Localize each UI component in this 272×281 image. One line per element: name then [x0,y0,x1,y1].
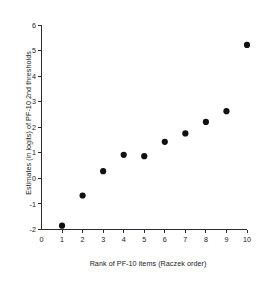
plot-svg: -2-10123456012345678910 [0,0,272,281]
y-tick-label: 3 [32,97,36,106]
y-tick-label: 1 [32,148,36,157]
data-point [59,223,65,229]
x-tick-label: 9 [224,235,228,244]
y-tick-label: 2 [32,123,36,132]
plot-area: -2-10123456012345678910 [0,0,272,281]
y-tick-label: 4 [32,72,36,81]
data-point [182,130,188,136]
scatter-chart-figure: Estimates (in logits) of PF-10 2nd thres… [0,0,272,281]
data-point [244,42,250,48]
x-tick-label: 4 [122,235,126,244]
ticks-layer: -2-10123456012345678910 [30,21,251,244]
x-tick-label: 8 [204,235,208,244]
y-tick-label: -2 [30,225,36,234]
x-tick-label: 0 [40,235,44,244]
data-points-layer [59,42,250,229]
data-point [121,152,127,158]
axes-layer [42,25,248,230]
data-point [80,192,86,198]
y-tick-label: -1 [30,200,36,209]
x-tick-label: 6 [163,235,167,244]
data-point [162,139,168,145]
x-tick-label: 1 [60,235,64,244]
x-tick-label: 5 [142,235,146,244]
data-point [141,153,147,159]
axis-spines [42,25,248,230]
x-tick-label: 2 [81,235,85,244]
y-tick-label: 6 [32,21,36,30]
x-tick-label: 3 [101,235,105,244]
y-tick-label: 0 [32,174,36,183]
data-point [100,168,106,174]
y-tick-label: 5 [32,46,36,55]
data-point [223,108,229,114]
data-point [203,119,209,125]
x-tick-label: 10 [243,235,251,244]
x-tick-label: 7 [183,235,187,244]
